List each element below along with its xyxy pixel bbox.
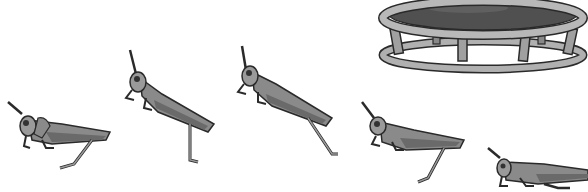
illustration-scene <box>0 0 588 192</box>
grasshopper-5-image <box>484 144 588 192</box>
grasshopper-1-image <box>2 96 117 171</box>
grasshopper-3-image <box>236 44 346 159</box>
grasshopper-2-image <box>122 48 217 168</box>
trampoline-image <box>378 0 588 75</box>
grasshopper-4-image <box>358 100 468 185</box>
